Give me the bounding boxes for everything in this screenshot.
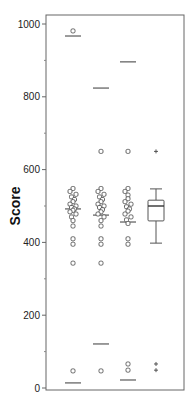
data-point — [71, 224, 75, 228]
iqr-box — [148, 200, 164, 221]
y-tick-label: 800 — [23, 91, 40, 102]
group-4 — [148, 149, 164, 372]
data-point — [74, 212, 78, 216]
data-point — [99, 261, 103, 265]
data-point — [74, 192, 78, 196]
group-1 — [65, 29, 81, 383]
y-tick-label: 600 — [23, 164, 40, 175]
data-point — [71, 29, 75, 33]
data-point — [123, 200, 127, 204]
data-point — [126, 237, 130, 241]
plot-area — [65, 29, 164, 383]
y-axis-title: Score — [7, 186, 23, 225]
data-point — [126, 221, 130, 225]
data-point — [96, 189, 100, 193]
y-tick-label: 1000 — [18, 19, 41, 30]
data-point — [126, 368, 130, 372]
data-point — [126, 242, 130, 246]
data-point — [68, 189, 72, 193]
y-tick-label: 200 — [23, 310, 40, 321]
data-point — [71, 369, 75, 373]
group-3 — [120, 62, 136, 380]
data-point — [71, 237, 75, 241]
data-point — [126, 149, 130, 153]
data-point — [129, 202, 133, 206]
data-point — [71, 242, 75, 246]
data-point — [96, 212, 100, 216]
data-point — [71, 219, 75, 223]
data-point — [99, 219, 103, 223]
data-point — [99, 224, 103, 228]
group-2 — [93, 88, 109, 373]
score-chart: 02004006008001000 Score — [0, 0, 195, 407]
data-point — [68, 210, 72, 214]
y-tick-label: 400 — [23, 237, 40, 248]
data-point — [102, 192, 106, 196]
y-tick-label: 0 — [34, 383, 40, 394]
data-point — [99, 237, 103, 241]
data-point — [71, 261, 75, 265]
data-point — [99, 242, 103, 246]
data-point — [123, 212, 127, 216]
data-point — [129, 215, 133, 219]
data-point — [126, 362, 130, 366]
data-point — [99, 369, 103, 373]
data-point — [99, 149, 103, 153]
